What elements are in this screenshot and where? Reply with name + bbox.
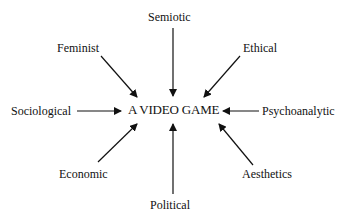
label-political: Political: [150, 198, 190, 212]
label-semiotic: Semiotic: [148, 10, 191, 24]
label-psychoanalytic: Psychoanalytic: [262, 104, 335, 118]
arrow-economic: [98, 124, 137, 162]
center-node: A VIDEO GAME: [128, 103, 219, 117]
label-economic: Economic: [59, 167, 108, 181]
arrow-ethical: [204, 56, 240, 97]
arrow-aesthetics: [219, 124, 253, 165]
label-sociological: Sociological: [11, 104, 71, 118]
label-ethical: Ethical: [243, 41, 277, 55]
arrow-feminist: [101, 56, 137, 97]
label-feminist: Feminist: [57, 41, 99, 55]
label-aesthetics: Aesthetics: [242, 167, 292, 181]
